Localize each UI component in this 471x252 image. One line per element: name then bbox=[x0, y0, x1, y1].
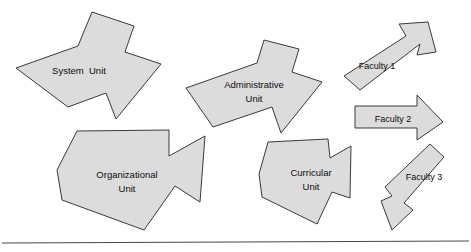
administrative-unit-label-line2: Unit bbox=[246, 93, 263, 104]
organizational-unit-label-line1: Organizational bbox=[96, 169, 157, 180]
organizational-unit-arrow-shape bbox=[57, 130, 205, 230]
arrow-system-unit: System Unit bbox=[16, 12, 161, 119]
system-unit-label: System Unit bbox=[52, 65, 106, 76]
faculty-1-label: Faculty 1 bbox=[359, 61, 396, 71]
arrow-faculty-1: Faculty 1 bbox=[344, 22, 436, 90]
arrow-faculty-3: Faculty 3 bbox=[381, 144, 444, 230]
arrow-curricular-unit: Curricular Unit bbox=[259, 139, 351, 224]
diagram-canvas: System Unit Administrative Unit Organiza… bbox=[0, 0, 471, 252]
faculty-2-label: Faculty 2 bbox=[375, 114, 412, 124]
curricular-unit-label-line1: Curricular bbox=[290, 167, 331, 178]
arrow-organizational-unit: Organizational Unit bbox=[57, 130, 205, 230]
faculty-1-arrow-shape bbox=[344, 22, 436, 90]
arrow-administrative-unit: Administrative Unit bbox=[186, 40, 322, 133]
faculty-3-arrow-shape bbox=[381, 144, 444, 230]
administrative-unit-label-line1: Administrative bbox=[224, 79, 284, 90]
faculty-3-label: Faculty 3 bbox=[406, 172, 443, 182]
organizational-unit-label-line2: Unit bbox=[119, 183, 136, 194]
curricular-unit-label-line2: Unit bbox=[303, 181, 320, 192]
bottom-divider-line bbox=[2, 241, 469, 243]
arrow-diagram: System Unit Administrative Unit Organiza… bbox=[0, 0, 471, 252]
arrow-faculty-2: Faculty 2 bbox=[355, 95, 443, 140]
